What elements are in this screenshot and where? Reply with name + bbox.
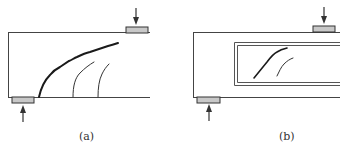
diagonal-crack-1: [254, 48, 287, 78]
secondary-crack-1: [73, 62, 94, 97]
load-arrow-down-icon: [133, 8, 139, 25]
panel-a: (a): [8, 8, 150, 143]
bottom-bearing-plate: [197, 97, 220, 103]
top-bearing-plate: [313, 26, 335, 32]
web-opening: [235, 43, 340, 86]
diagonal-crack-2: [277, 58, 293, 76]
panel-label-b: (b): [279, 130, 295, 143]
figure: (a) (b): [0, 0, 340, 153]
beam-outline: [193, 32, 340, 98]
secondary-crack-2: [98, 64, 109, 97]
reaction-arrow-up-icon: [20, 105, 26, 122]
reaction-arrow-up-icon: [206, 104, 212, 121]
load-arrow-down-icon: [321, 7, 327, 24]
bottom-bearing-plate: [12, 97, 34, 103]
main-diagonal-crack: [39, 43, 118, 97]
panel-b: (b): [193, 7, 340, 143]
panel-label-a: (a): [79, 130, 94, 143]
beam-outline: [8, 32, 150, 98]
top-bearing-plate: [126, 27, 148, 33]
